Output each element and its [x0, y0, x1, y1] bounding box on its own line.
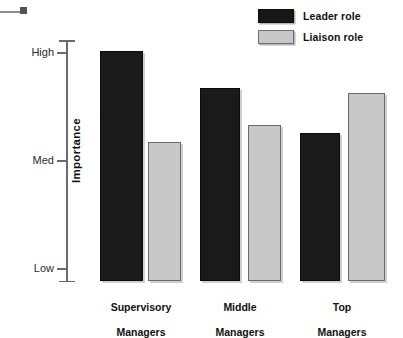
x-label-line-1: Supervisory: [111, 301, 172, 313]
bar-leader-supervisory-managers: [100, 51, 143, 281]
y-tick-low: [57, 268, 67, 270]
y-tick-med: [57, 160, 67, 162]
y-axis-top-cap: [59, 40, 75, 42]
x-label-line-1: Top: [333, 301, 351, 313]
bar-liaison-supervisory-managers: [148, 142, 181, 281]
y-tick-label-med: Med: [33, 155, 54, 166]
y-tick-label-high: High: [31, 47, 54, 58]
bar-liaison-top-managers: [348, 93, 385, 281]
x-label-middle-managers: Middle Managers: [181, 288, 299, 338]
x-label-line-2: Managers: [317, 326, 366, 338]
y-tick-label-low: Low: [34, 263, 54, 274]
x-label-top-managers: Top Managers: [283, 288, 401, 338]
y-axis-title: Importance: [70, 118, 82, 183]
x-label-line-1: Middle: [223, 301, 256, 313]
bar-leader-middle-managers: [200, 88, 240, 281]
x-label-line-2: Managers: [215, 326, 264, 338]
y-tick-high: [57, 52, 67, 54]
bar-leader-top-managers: [300, 133, 340, 281]
bar-liaison-middle-managers: [248, 125, 281, 281]
x-label-line-2: Managers: [116, 326, 165, 338]
y-axis-bottom-cap: [59, 281, 75, 283]
